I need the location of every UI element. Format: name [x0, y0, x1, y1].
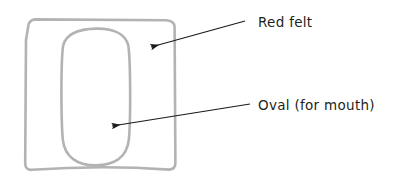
diagram-illustration: Red felt Oval (for mouth): [0, 0, 393, 180]
mouth-oval-label: Oval (for mouth): [258, 97, 375, 113]
red-felt-label: Red felt: [258, 14, 312, 30]
canvas-background: [0, 0, 393, 180]
diagram-canvas: Red felt Oval (for mouth): [0, 0, 393, 180]
